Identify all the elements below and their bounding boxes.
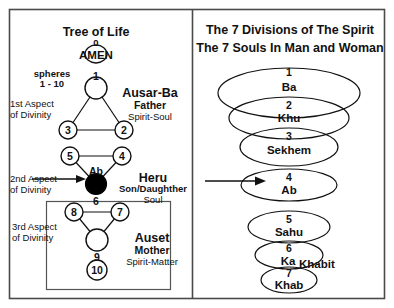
third-aspect-line2: of Divinity <box>12 233 53 243</box>
crown-number-label: 0 <box>93 38 98 48</box>
sphere-number-10: 10 <box>91 265 103 276</box>
group-ausar-ba-nature: Spirit-Soul <box>128 112 172 122</box>
first-aspect-line1: 1st Aspect <box>10 99 54 109</box>
sphere-number-5: 5 <box>67 151 73 162</box>
sphere-number-6: 6 <box>93 196 99 207</box>
group-auset-nature: Spirit-Matter <box>126 257 178 267</box>
sphere-number-1: 1 <box>93 71 99 82</box>
soul-number-3: 3 <box>286 131 292 142</box>
second-aspect-line1: 2nd Aspect <box>10 174 57 184</box>
soul-name-5: Sahu <box>275 227 303 239</box>
soul-name-6: Ka <box>281 256 296 268</box>
sphere-number-4: 4 <box>119 151 125 162</box>
soul-number-5: 5 <box>286 214 292 225</box>
soul-name-7: Khab <box>275 280 304 292</box>
soul-number-7: 7 <box>286 268 292 279</box>
spheres-note-line2: 1 - 10 <box>40 79 64 89</box>
group-ausar-ba-name: Ausar-Ba <box>122 87 178 100</box>
soul-name-3: Sekhem <box>267 145 311 157</box>
group-auset-name: Auset <box>135 232 170 245</box>
sphere-number-8: 8 <box>71 207 77 218</box>
soul-number-4: 4 <box>286 172 292 183</box>
group-heru-nature: Soul <box>143 195 162 205</box>
soul-name-2: Khu <box>278 113 300 125</box>
sphere-number-2: 2 <box>121 125 127 136</box>
khabit-label: Khabit <box>299 259 335 271</box>
sphere-number-7: 7 <box>117 207 123 218</box>
sphere-number-3: 3 <box>65 125 71 136</box>
arrow-to-sphere-6-head <box>76 175 86 183</box>
soul-number-6: 6 <box>286 243 292 254</box>
sphere-9 <box>86 229 108 251</box>
soul-name-4: Ab <box>281 185 296 197</box>
third-aspect-line1: 3rd Aspect <box>12 222 57 232</box>
group-auset-role: Mother <box>135 245 170 256</box>
amen-label: AMEN <box>79 50 113 62</box>
ab-label: Ab <box>89 166 103 177</box>
right-panel-title-line1: The 7 Divisions of The Spirit <box>206 24 374 37</box>
group-ausar-ba-role: Father <box>134 100 166 111</box>
first-aspect-line2: of Divinity <box>10 110 51 120</box>
soul-number-2: 2 <box>286 100 292 111</box>
right-panel-title-line2: The 7 Souls In Man and Woman <box>196 42 383 55</box>
soul-number-1: 1 <box>286 67 292 78</box>
sphere-number-9: 9 <box>94 252 100 263</box>
group-heru-role: Son/Daughther <box>119 184 187 194</box>
diagram-canvas: Tree of Life 0 AMEN spheres 1 - 10 1st A… <box>0 0 394 308</box>
soul-name-1: Ba <box>282 82 297 94</box>
second-aspect-line2: of Divinity <box>10 185 51 195</box>
